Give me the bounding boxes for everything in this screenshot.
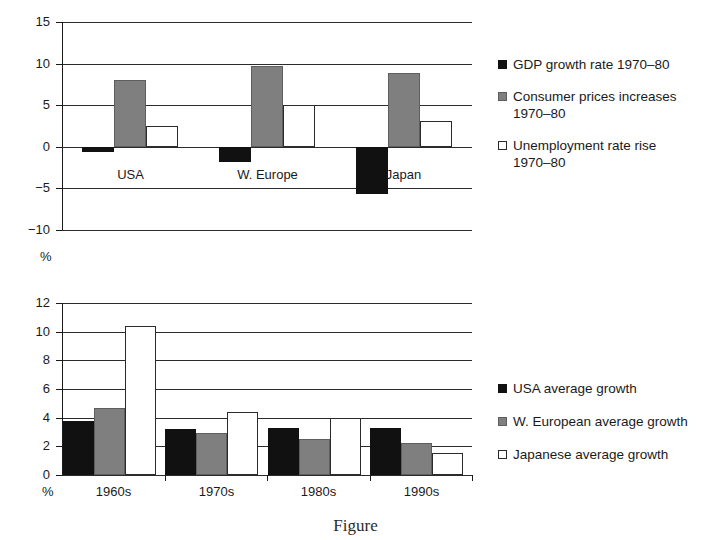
y-axis-tick-label: 6	[16, 382, 50, 395]
legend-item: Unemployment rate rise 1970–80	[498, 137, 703, 171]
y-axis-line	[62, 22, 63, 230]
y-axis-tick-label: 5	[16, 98, 50, 111]
top-chart-figure: 151050−5−10USAW. EuropeJapan% GDP growth…	[0, 0, 711, 272]
x-axis-tick	[267, 475, 268, 481]
legend-item: Consumer prices increases 1970–80	[498, 88, 703, 122]
axis-unit-label: %	[42, 485, 54, 498]
y-axis-tick	[56, 230, 62, 231]
gridline	[62, 188, 472, 189]
gridline	[62, 360, 472, 361]
gridline	[62, 230, 472, 231]
legend-item: USA average growth	[498, 380, 708, 397]
zero-line	[62, 147, 472, 148]
legend-swatch-black-icon	[498, 384, 507, 393]
gridline	[62, 64, 472, 65]
legend-swatch-gray-icon	[498, 417, 507, 426]
legend-item-label: W. European average growth	[513, 413, 688, 430]
bar	[432, 453, 463, 475]
bar	[125, 326, 156, 475]
bar	[196, 433, 227, 475]
y-axis-tick	[56, 475, 62, 476]
y-axis-tick-label: −10	[16, 223, 50, 236]
x-axis-category-label: USA	[62, 168, 199, 181]
x-axis-tick	[370, 475, 371, 481]
bar	[227, 412, 258, 475]
x-axis-category-label: 1980s	[267, 485, 370, 498]
bar	[370, 428, 401, 475]
bar	[165, 429, 196, 475]
bar	[219, 147, 251, 162]
legend-item-label: USA average growth	[513, 380, 637, 397]
legend-item-label: Unemployment rate rise 1970–80	[513, 137, 656, 171]
legend-swatch-gray-icon	[498, 92, 507, 101]
x-axis-tick	[472, 475, 473, 481]
legend-item: Japanese average growth	[498, 446, 708, 463]
gridline	[62, 22, 472, 23]
y-axis-tick-label: 4	[16, 411, 50, 424]
x-axis-category-label: 1970s	[165, 485, 268, 498]
x-axis-category-label: 1990s	[370, 485, 473, 498]
y-axis-tick-label: −5	[16, 181, 50, 194]
top-chart-plot: 151050−5−10USAW. EuropeJapan%	[62, 22, 472, 230]
gridline	[62, 303, 472, 304]
bar	[63, 421, 94, 475]
bar	[251, 66, 283, 147]
bar	[283, 105, 315, 147]
bottom-chart-figure: 1210864201960s1970s1980s1990s% USA avera…	[0, 285, 711, 505]
bottom-chart-plot: 1210864201960s1970s1980s1990s%	[62, 303, 472, 475]
legend-item-label: Japanese average growth	[513, 446, 668, 463]
gridline	[62, 389, 472, 390]
legend-item: W. European average growth	[498, 413, 708, 430]
legend-item-label: GDP growth rate 1970–80	[513, 56, 670, 73]
y-axis-tick-label: 15	[16, 15, 50, 28]
figure-caption: Figure	[0, 516, 711, 540]
bar	[94, 408, 125, 475]
bar	[330, 418, 361, 475]
gridline	[62, 332, 472, 333]
y-axis-tick-label: 0	[16, 468, 50, 481]
bottom-chart-legend: USA average growthW. European average gr…	[498, 380, 708, 479]
y-axis-tick-label: 2	[16, 439, 50, 452]
bar	[401, 443, 432, 475]
bar	[146, 126, 178, 147]
top-chart-legend: GDP growth rate 1970–80Consumer prices i…	[498, 56, 703, 186]
x-axis-category-label: Japan	[335, 168, 472, 181]
y-axis-tick-label: 10	[16, 57, 50, 70]
x-axis-category-label: 1960s	[62, 485, 165, 498]
legend-swatch-white-icon	[498, 450, 507, 459]
bar	[420, 121, 452, 147]
y-axis-tick-label: 0	[16, 140, 50, 153]
x-axis-category-label: W. Europe	[199, 168, 336, 181]
bar	[82, 147, 114, 152]
y-axis-tick-label: 8	[16, 353, 50, 366]
bar	[114, 80, 146, 147]
axis-unit-label: %	[40, 250, 52, 263]
y-axis-tick-label: 12	[16, 296, 50, 309]
bar	[388, 73, 420, 147]
bar	[268, 428, 299, 475]
x-axis-tick	[165, 475, 166, 481]
legend-swatch-black-icon	[498, 60, 507, 69]
legend-item: GDP growth rate 1970–80	[498, 56, 703, 73]
legend-swatch-white-icon	[498, 141, 507, 150]
legend-item-label: Consumer prices increases 1970–80	[513, 88, 677, 122]
bar	[299, 439, 330, 475]
y-axis-tick-label: 10	[16, 325, 50, 338]
